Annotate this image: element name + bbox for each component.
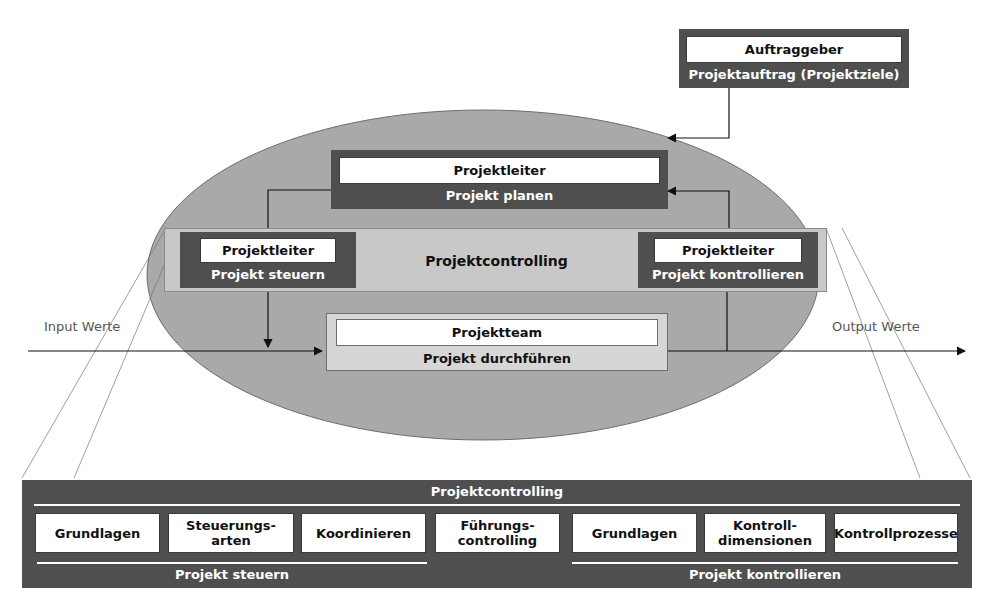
detail-item-koordinieren: Koordinieren [301, 513, 426, 553]
detail-item-text: Führungs- [460, 518, 534, 533]
planning-box: Projektleiter Projekt planen [331, 150, 668, 209]
detail-item-text: Grundlagen [55, 526, 141, 541]
detail-item-steuerungsarten: Steuerungs- arten [168, 513, 294, 553]
detail-item-kontrolldimensionen: Kontroll- dimensionen [704, 513, 826, 553]
execution-box: Projektteam Projekt durchführen [326, 313, 668, 371]
detail-item-grundlagen-steer: Grundlagen [35, 513, 160, 553]
execution-role-text: Projektteam [452, 325, 542, 340]
client-output: Projektauftrag (Projektziele) [679, 67, 909, 82]
control-box: Projektleiter Projekt kontrollieren [638, 232, 818, 288]
detail-item-fuehrungscontrolling: Führungs- controlling [435, 513, 560, 553]
detail-item-kontrollprozesse: Kontrollprozesse [834, 513, 958, 553]
detail-item-text: Kontrollprozesse [834, 526, 958, 541]
detail-item-text: arten [211, 533, 250, 548]
detail-steer-rule [37, 562, 427, 564]
planning-role-text: Projektleiter [453, 163, 545, 178]
control-role: Projektleiter [654, 238, 802, 263]
detail-item-text: dimensionen [718, 533, 812, 548]
detail-item-text: controlling [458, 533, 537, 548]
detail-group-control: Projekt kontrollieren [572, 567, 958, 582]
control-activity: Projekt kontrollieren [638, 267, 818, 282]
planning-role: Projektleiter [339, 157, 660, 184]
steer-role: Projektleiter [200, 238, 336, 263]
client-role-text: Auftraggeber [745, 42, 843, 57]
client-role: Auftraggeber [686, 36, 902, 63]
detail-item-text: Kontroll- [733, 518, 797, 533]
execution-role: Projektteam [336, 319, 658, 346]
detail-item-text: Steuerungs- [186, 518, 276, 533]
planning-activity: Projekt planen [331, 188, 668, 203]
steer-box: Projektleiter Projekt steuern [180, 232, 356, 288]
input-label: Input Werte [44, 319, 120, 334]
steer-role-text: Projektleiter [222, 243, 314, 258]
detail-panel: Projektcontrolling Grundlagen Steuerungs… [22, 480, 972, 588]
control-role-text: Projektleiter [682, 243, 774, 258]
client-box: Auftraggeber Projektauftrag (Projektziel… [679, 29, 909, 88]
detail-top-rule [34, 504, 960, 506]
detail-item-grundlagen-control: Grundlagen [572, 513, 697, 553]
detail-panel-title: Projektcontrolling [22, 484, 972, 499]
execution-activity: Projekt durchführen [327, 351, 667, 366]
detail-group-steer: Projekt steuern [37, 567, 427, 582]
output-label: Output Werte [832, 319, 920, 334]
detail-control-rule [572, 562, 958, 564]
detail-item-text: Grundlagen [592, 526, 678, 541]
detail-item-text: Koordinieren [316, 526, 411, 541]
steer-activity: Projekt steuern [180, 267, 356, 282]
